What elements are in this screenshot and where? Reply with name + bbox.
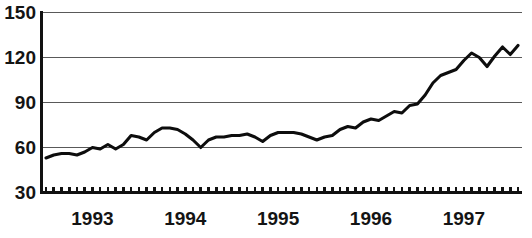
chart-canvas: 306090120150 19931994199519961997 bbox=[0, 0, 532, 238]
y-tick-label-30: 30 bbox=[15, 182, 36, 203]
gridlines bbox=[42, 13, 523, 148]
y-tick-label-150: 150 bbox=[4, 2, 36, 23]
x-tick-label-1993: 1993 bbox=[71, 208, 113, 229]
x-tick-label-1996: 1996 bbox=[350, 208, 392, 229]
y-axis-tick-labels: 306090120150 bbox=[4, 2, 36, 203]
line-chart: 306090120150 19931994199519961997 bbox=[0, 0, 532, 238]
x-axis-tick-labels: 19931994199519961997 bbox=[71, 208, 485, 229]
y-tick-label-60: 60 bbox=[15, 137, 36, 158]
y-tick-label-120: 120 bbox=[4, 47, 36, 68]
y-tick-label-90: 90 bbox=[15, 92, 36, 113]
x-tick-label-1997: 1997 bbox=[443, 208, 485, 229]
x-tick-label-1995: 1995 bbox=[257, 208, 300, 229]
x-tick-label-1994: 1994 bbox=[164, 208, 207, 229]
